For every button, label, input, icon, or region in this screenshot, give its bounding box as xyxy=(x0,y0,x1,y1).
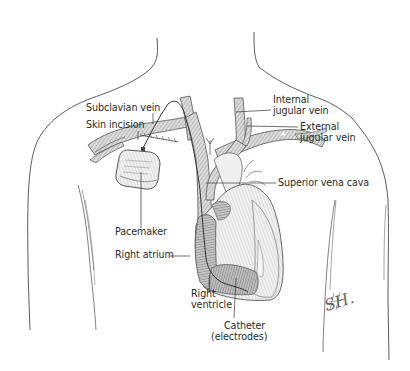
label-right-ventricle-line2: ventricle xyxy=(191,299,232,311)
label-internal-jugular-line1: Internal xyxy=(273,94,309,106)
label-external-jugular-line2: jugular vein xyxy=(300,132,356,144)
label-internal-jugular-line2: jugular vein xyxy=(273,105,329,117)
label-right-atrium: Right atrium xyxy=(115,249,174,261)
label-subclavian-vein: Subclavian vein xyxy=(86,102,160,114)
label-catheter-line2: (electrodes) xyxy=(211,331,267,343)
pacemaker-anatomy-illustration: Subclavian vein Skin incision Internal j… xyxy=(0,0,410,371)
label-right-ventricle-line1: Right xyxy=(191,288,216,300)
pacemaker-device xyxy=(116,147,160,189)
label-superior-vena-cava: Superior vena cava xyxy=(278,177,369,189)
label-catheter-line1: Catheter xyxy=(224,320,265,332)
label-external-jugular-line1: External xyxy=(300,121,339,133)
label-pacemaker: Pacemaker xyxy=(115,226,167,238)
label-skin-incision: Skin incision xyxy=(86,119,144,131)
